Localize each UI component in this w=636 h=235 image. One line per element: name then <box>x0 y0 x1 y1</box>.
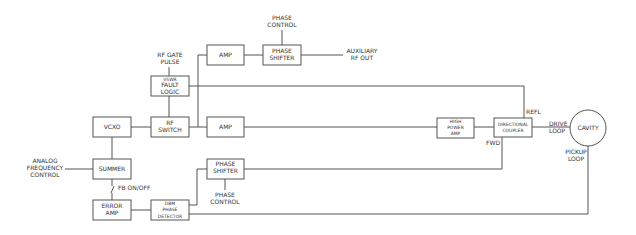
svg-text:ERROR: ERROR <box>101 202 122 209</box>
svg-text:VCXO: VCXO <box>104 123 121 130</box>
svg-text:HIGH: HIGH <box>450 119 462 124</box>
block-vswr-fault-logic: VSWR FAULT LOGIC <box>151 76 189 96</box>
svg-text:SHIFTER: SHIFTER <box>213 167 238 174</box>
svg-text:LOOP: LOOP <box>549 127 566 134</box>
svg-text:PICKUP: PICKUP <box>565 148 587 155</box>
block-summer: SUMMER <box>93 159 131 179</box>
svg-text:LOOP: LOOP <box>568 155 585 162</box>
svg-text:AMP: AMP <box>106 209 119 216</box>
svg-text:SUMMER: SUMMER <box>99 165 126 172</box>
svg-text:DETECTOR: DETECTOR <box>158 214 182 219</box>
svg-text:FREQUENCY: FREQUENCY <box>27 164 64 171</box>
svg-text:COUPLER: COUPLER <box>502 128 523 133</box>
label-phase-control-top: PHASE CONTROL <box>267 14 297 28</box>
svg-text:DRIVE: DRIVE <box>549 120 568 127</box>
label-fb-on-off: FB ON/OFF <box>118 184 151 191</box>
svg-text:FAULT: FAULT <box>161 81 179 88</box>
block-error-amp: ERROR AMP <box>93 200 131 220</box>
block-directional-coupler: DIRECTIONAL COUPLER <box>494 118 532 137</box>
svg-text:AMP: AMP <box>451 131 461 136</box>
svg-text:RF GATE: RF GATE <box>157 51 182 58</box>
label-analog-frequency-control: ANALOG FREQUENCY CONTROL <box>27 157 64 178</box>
label-fwd: FWD <box>486 139 500 146</box>
svg-text:RF OUT: RF OUT <box>351 54 374 61</box>
block-cavity: CAVITY <box>570 110 606 146</box>
block-phase-shifter-bottom: PHASE SHIFTER <box>207 159 244 179</box>
block-amp-mid: AMP <box>207 117 244 137</box>
svg-text:SWITCH: SWITCH <box>158 126 182 133</box>
svg-text:LOGIC: LOGIC <box>161 88 179 95</box>
svg-text:AUXILIARY: AUXILIARY <box>346 47 377 54</box>
block-high-power-amp: HIGH POWER AMP <box>437 118 474 138</box>
label-drive-loop: DRIVE LOOP <box>549 120 568 134</box>
block-phase-shifter-top: PHASE SHIFTER <box>263 45 301 65</box>
svg-text:PHASE: PHASE <box>216 160 236 167</box>
svg-text:DIRECTIONAL: DIRECTIONAL <box>498 122 529 127</box>
svg-text:PHASE: PHASE <box>215 191 235 198</box>
label-refl: REFL <box>526 108 541 115</box>
svg-text:CAVITY: CAVITY <box>577 124 598 131</box>
svg-text:CONTROL: CONTROL <box>267 21 297 28</box>
svg-text:PHASE: PHASE <box>272 14 292 21</box>
block-rf-switch: RF SWITCH <box>151 117 189 137</box>
svg-text:SHIFTER: SHIFTER <box>269 54 294 61</box>
svg-text:ANALOG: ANALOG <box>32 157 58 164</box>
block-dbm-phase-detector: DBM PHASE DETECTOR <box>151 200 189 220</box>
svg-text:DBM: DBM <box>165 201 176 206</box>
svg-text:POWER: POWER <box>447 125 464 130</box>
svg-text:CONTROL: CONTROL <box>30 171 60 178</box>
label-pickup-loop: PICKUP LOOP <box>565 148 587 162</box>
block-vcxo: VCXO <box>93 117 131 137</box>
block-amp-top: AMP <box>207 45 244 65</box>
svg-text:AMP: AMP <box>219 51 232 58</box>
block-diagram: AMP PHASE SHIFTER VSWR FAULT LOGIC VCXO … <box>0 0 636 235</box>
svg-text:PULSE: PULSE <box>161 58 180 65</box>
svg-text:AMP: AMP <box>219 123 232 130</box>
svg-text:RF: RF <box>166 119 174 126</box>
svg-text:PHASE: PHASE <box>163 207 178 212</box>
svg-text:CONTROL: CONTROL <box>210 198 240 205</box>
label-phase-control-bottom: PHASE CONTROL <box>210 191 240 205</box>
svg-text:PHASE: PHASE <box>272 47 292 54</box>
label-auxiliary-rf-out: AUXILIARY RF OUT <box>346 47 377 61</box>
label-rf-gate-pulse: RF GATE PULSE <box>157 51 182 65</box>
